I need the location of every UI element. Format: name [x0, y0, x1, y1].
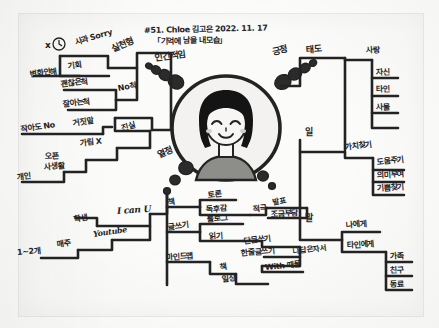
- node-personal: 개인: [17, 173, 31, 182]
- node-self: 자신: [376, 68, 390, 77]
- node-family: 가족: [390, 252, 404, 261]
- screenshot-canvas: #51. Chloe 김고은 2022. 11. 17 「기억에 남을 내모습」…: [0, 0, 439, 328]
- node-weekly: 매주: [57, 240, 71, 249]
- node-debate: 토론: [208, 190, 222, 200]
- bubble-trail-upper-left: [145, 62, 186, 92]
- node-other: 타인: [376, 85, 390, 94]
- node-love: 사랑: [366, 46, 380, 55]
- clock-icon: [53, 38, 65, 50]
- node-active: 적극: [253, 205, 267, 214]
- bubble-trail-lower-left: [164, 161, 194, 194]
- node-book-2: 책: [219, 263, 227, 272]
- bubble-trail-lower-right: [258, 171, 276, 189]
- node-reading: 읽기: [209, 232, 223, 241]
- node-friend: 친구: [390, 266, 404, 275]
- node-book: 책: [168, 198, 176, 207]
- branch-top-left: [34, 53, 171, 110]
- node-attitude: 태도: [306, 45, 322, 55]
- node-things: 사물: [376, 103, 390, 112]
- node-x-mark: x: [45, 41, 51, 50]
- node-work: 일: [303, 127, 312, 135]
- portrait-drawing: [196, 90, 256, 180]
- node-colleague: 동료: [390, 280, 404, 289]
- node-daily: 일상: [222, 275, 236, 284]
- node-speech: 말: [303, 213, 312, 221]
- node-open: 오픈: [45, 152, 59, 161]
- header-line-2: 「기억에 남을 내모습」: [153, 36, 227, 46]
